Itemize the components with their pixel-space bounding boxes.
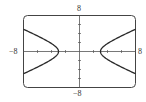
x-min-label: −8 xyxy=(9,48,18,56)
y-min-label: −8 xyxy=(73,90,82,98)
x-max-label: 8 xyxy=(138,48,142,56)
hyperbola-plot xyxy=(0,0,146,102)
y-max-label: 8 xyxy=(77,5,81,13)
axes xyxy=(24,16,136,88)
